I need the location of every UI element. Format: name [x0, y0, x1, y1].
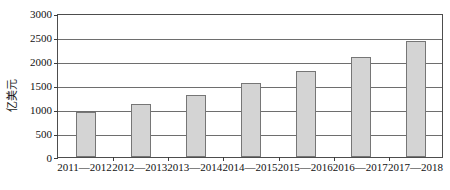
bar	[241, 83, 261, 157]
y-tick-label: 3000	[12, 8, 52, 20]
y-tick-label: 500	[12, 128, 52, 140]
y-tick-label: 2000	[12, 56, 52, 68]
y-tick-mark	[54, 158, 58, 159]
x-tick-label: 2017—2018	[388, 160, 443, 174]
bar	[351, 57, 371, 157]
x-tick-label: 2015—2016	[278, 160, 333, 174]
x-axis-tick-labels: 2011—20122012—20132013—20142014—20152015…	[57, 160, 443, 180]
bar	[131, 104, 151, 157]
y-axis-tick-labels: 050010001500200025003000	[12, 8, 52, 158]
x-tick-label: 2016—2017	[333, 160, 388, 174]
y-tick-label: 2500	[12, 32, 52, 44]
bars-group	[58, 15, 442, 157]
bar	[406, 41, 426, 157]
bar	[76, 112, 96, 157]
y-tick-label: 1500	[12, 80, 52, 92]
plot-area	[57, 14, 443, 158]
bar	[296, 71, 316, 157]
y-tick-label: 0	[12, 152, 52, 164]
bar-chart: 亿美元 050010001500200025003000 2011—201220…	[0, 0, 450, 190]
x-tick-label: 2011—2012	[57, 160, 112, 174]
bar	[186, 95, 206, 157]
y-tick-label: 1000	[12, 104, 52, 116]
x-tick-label: 2014—2015	[222, 160, 277, 174]
x-tick-label: 2012—2013	[112, 160, 167, 174]
x-tick-label: 2013—2014	[167, 160, 222, 174]
